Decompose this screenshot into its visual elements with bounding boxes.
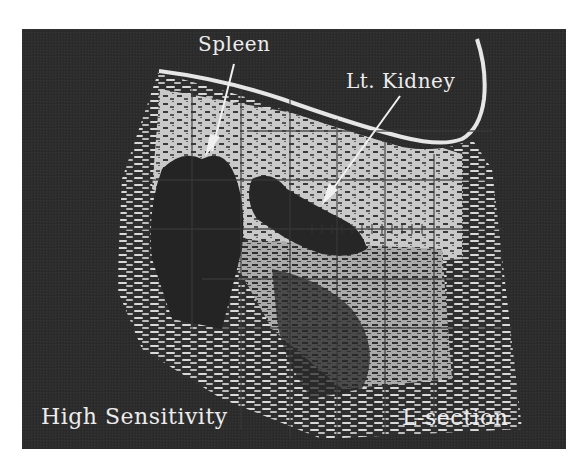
spleen-label: Spleen [198,32,270,56]
sensitivity-label: High Sensitivity [41,404,228,429]
scan-field [22,29,566,449]
section-label: L-section [402,405,508,430]
ultrasound-image: Spleen Lt. Kidney High Sensitivity L-sec… [22,29,566,449]
kidney-label: Lt. Kidney [346,69,455,93]
